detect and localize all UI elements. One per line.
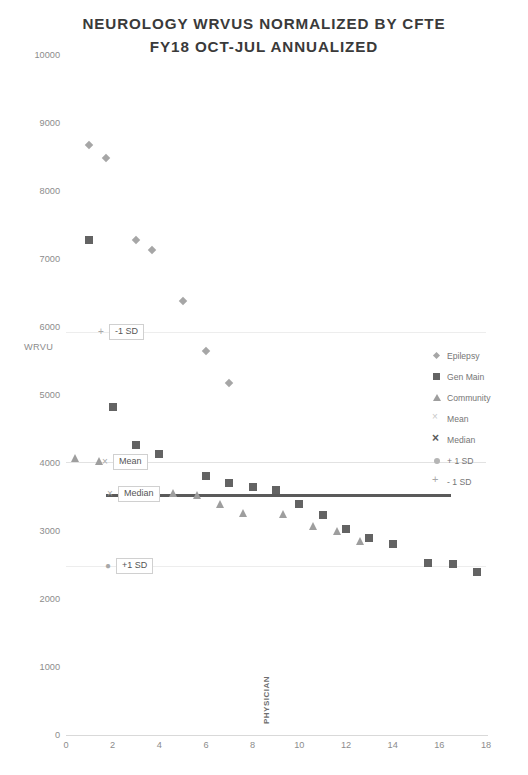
data-point-community	[216, 500, 224, 508]
data-point-community	[279, 510, 287, 518]
triangle-marker-icon	[432, 393, 441, 402]
plot-area	[66, 55, 486, 735]
y-tick-label: 1000	[20, 662, 60, 672]
legend-item-gen-main[interactable]: Gen Main	[432, 366, 524, 387]
plus-marker-icon	[432, 477, 441, 486]
legend-label: Epilepsy	[447, 351, 479, 361]
chart-legend: EpilepsyGen MainCommunityMeanMedian+ 1 S…	[432, 345, 524, 492]
data-point-community	[333, 527, 341, 535]
data-point-gen-main	[365, 534, 373, 542]
data-point-epilepsy	[202, 347, 210, 355]
legend-item-community[interactable]: Community	[432, 387, 524, 408]
data-point-epilepsy	[85, 141, 93, 149]
y-axis-ticks: 0100020003000400050006000700080009000100…	[12, 55, 60, 735]
data-point-gen-main	[85, 236, 93, 244]
y-tick-label: 8000	[20, 186, 60, 196]
data-point-gen-main	[473, 568, 481, 576]
y-tick-label: 10000	[20, 50, 60, 60]
data-point-community	[309, 522, 317, 530]
legend-label: - 1 SD	[447, 477, 471, 487]
x-tick-label: 10	[284, 740, 314, 750]
callout-marker-icon: ×	[100, 457, 110, 467]
data-point-gen-main	[389, 540, 397, 548]
callout--1-sd: +-1 SD	[96, 324, 144, 340]
square-marker-icon	[432, 372, 441, 381]
data-point-community	[239, 509, 247, 517]
data-point-gen-main	[295, 500, 303, 508]
x-tick-label: 0	[51, 740, 81, 750]
data-point-epilepsy	[148, 246, 156, 254]
data-point-gen-main	[132, 441, 140, 449]
data-point-gen-main	[424, 559, 432, 567]
y-tick-label: 9000	[20, 118, 60, 128]
y-tick-label: 2000	[20, 594, 60, 604]
legend-item--1-sd[interactable]: - 1 SD	[432, 471, 524, 492]
x-axis-ticks: 024681012141618	[66, 740, 486, 760]
legend-item--1-sd[interactable]: + 1 SD	[432, 450, 524, 471]
chart-title: NEUROLOGY WRVUS NORMALIZED BY CFTE FY18 …	[0, 12, 528, 58]
legend-label: Gen Main	[447, 372, 484, 382]
legend-label: + 1 SD	[447, 456, 474, 466]
data-point-gen-main	[272, 486, 280, 494]
callout--1-sd: ●+1 SD	[103, 558, 153, 574]
x-tick-label: 12	[331, 740, 361, 750]
callout-marker-icon: +	[96, 327, 106, 337]
callout-marker-icon: ●	[103, 561, 113, 571]
data-point-gen-main	[202, 472, 210, 480]
callout-label: Mean	[113, 454, 148, 470]
x-tick-label: 18	[471, 740, 501, 750]
y-tick-label: 7000	[20, 254, 60, 264]
y-tick-label: 3000	[20, 526, 60, 536]
data-point-community	[169, 489, 177, 497]
data-point-gen-main	[109, 403, 117, 411]
x-tick-label: 8	[238, 740, 268, 750]
callout-marker-icon: ×	[105, 489, 115, 499]
legend-item-mean[interactable]: Mean	[432, 408, 524, 429]
x-tick-label: 4	[144, 740, 174, 750]
data-point-epilepsy	[101, 154, 109, 162]
data-point-gen-main	[225, 479, 233, 487]
data-point-epilepsy	[132, 236, 140, 244]
legend-item-epilepsy[interactable]: Epilepsy	[432, 345, 524, 366]
chart-title-line1: NEUROLOGY WRVUS NORMALIZED BY CFTE	[82, 15, 445, 32]
diamond-marker-icon	[432, 351, 441, 360]
y-tick-label: 6000	[20, 322, 60, 332]
chart-canvas: NEUROLOGY WRVUS NORMALIZED BY CFTE FY18 …	[0, 0, 528, 775]
callout-mean: ×Mean	[100, 454, 148, 470]
x-axis-line	[66, 735, 488, 736]
data-point-gen-main	[319, 511, 327, 519]
data-point-gen-main	[449, 560, 457, 568]
circle-marker-icon	[432, 456, 441, 465]
x-tick-label: 2	[98, 740, 128, 750]
callout-label: +1 SD	[116, 558, 153, 574]
x-tick-label: 6	[191, 740, 221, 750]
data-point-community	[71, 454, 79, 462]
data-point-gen-main	[342, 525, 350, 533]
x-tick-label: 14	[378, 740, 408, 750]
callout-label: Median	[118, 486, 160, 502]
x-bold-marker-icon	[432, 435, 441, 444]
data-point-community	[193, 491, 201, 499]
callout-label: -1 SD	[109, 324, 144, 340]
y-tick-label: 5000	[20, 390, 60, 400]
data-point-gen-main	[249, 483, 257, 491]
legend-item-median[interactable]: Median	[432, 429, 524, 450]
y-tick-label: 0	[20, 730, 60, 740]
data-point-community	[356, 537, 364, 545]
legend-label: Mean	[447, 414, 469, 424]
legend-label: Community	[447, 393, 490, 403]
data-point-epilepsy	[178, 297, 186, 305]
x-tick-label: 16	[424, 740, 454, 750]
data-point-epilepsy	[225, 379, 233, 387]
data-point-gen-main	[155, 450, 163, 458]
y-tick-label: 4000	[20, 458, 60, 468]
x-marker-icon	[432, 414, 441, 423]
legend-label: Median	[447, 435, 475, 445]
callout-median: ×Median	[105, 486, 160, 502]
y-axis-title: WRVU	[24, 342, 53, 352]
